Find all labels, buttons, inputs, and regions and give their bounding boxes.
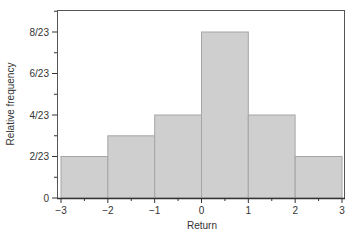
histogram-bar <box>61 157 108 199</box>
histogram-bar <box>155 115 202 198</box>
x-tick-label: 1 <box>246 205 252 216</box>
y-tick-label: 6/23 <box>30 68 50 79</box>
y-axis-label: Relative frequency <box>5 63 16 146</box>
histogram-bar <box>295 157 342 199</box>
x-tick-label: −3 <box>55 205 67 216</box>
x-tick-label: −1 <box>149 205 161 216</box>
histogram-bar <box>248 115 295 198</box>
y-tick-label: 8/23 <box>30 27 50 38</box>
x-axis-label: Return <box>187 220 217 231</box>
x-tick-label: 2 <box>292 205 298 216</box>
histogram-bars <box>61 32 342 198</box>
histogram-bar <box>202 32 249 198</box>
histogram-chart: 02/234/236/238/23 −3−2−10123 Return Rela… <box>0 0 353 238</box>
x-tick-label: 3 <box>339 205 345 216</box>
y-axis: 02/234/236/238/23 <box>30 11 57 203</box>
x-tick-label: 0 <box>199 205 205 216</box>
x-tick-label: −2 <box>102 205 114 216</box>
x-axis: −3−2−10123 <box>55 198 345 216</box>
y-tick-label: 4/23 <box>30 110 50 121</box>
histogram-bar <box>108 136 155 198</box>
y-tick-label: 2/23 <box>30 151 50 162</box>
y-tick-label: 0 <box>43 193 49 204</box>
